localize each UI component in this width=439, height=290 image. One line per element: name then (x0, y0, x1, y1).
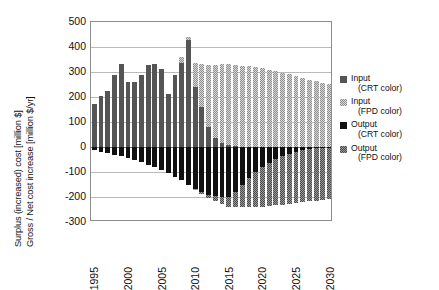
bar-column (273, 22, 278, 220)
bar-column (186, 22, 191, 220)
bar-segment-input-crt (193, 87, 198, 147)
bar-column (300, 22, 305, 220)
bar-segment-input-crt (126, 82, 131, 148)
y-axis-tick-label: 500 (46, 16, 86, 27)
bar-segment-input-crt (206, 127, 211, 147)
bar-segment-input-crt (159, 69, 164, 148)
bar-column (327, 22, 332, 220)
legend-label-secondary: (CRT color) (358, 130, 436, 140)
bar-segment-output-fpd (273, 159, 278, 205)
bar-segment-output-fpd (327, 148, 332, 200)
bar-segment-input-fpd (226, 64, 231, 145)
x-axis-tick-label: 2000 (122, 267, 134, 290)
bar-column (247, 22, 252, 220)
bar-column (314, 22, 319, 220)
bar-segment-input-fpd (247, 66, 252, 147)
bar-segment-input-fpd (287, 74, 292, 147)
bar-column (193, 22, 198, 220)
bar-segment-input-fpd (253, 67, 258, 147)
plot-area (90, 21, 332, 221)
bar-segment-output-crt (253, 147, 258, 172)
bar-segment-input-fpd (300, 78, 305, 147)
bar-segment-output-crt (199, 147, 204, 192)
legend-item: Output(CRT color) (340, 120, 436, 139)
bar-segment-output-crt (247, 147, 252, 178)
x-axis-tick-label: 2030 (324, 267, 336, 290)
bar-column (226, 22, 231, 220)
bar-segment-input-crt (173, 75, 178, 147)
bar-segment-output-fpd (233, 192, 238, 208)
y-axis-tick-label: 0 (46, 141, 86, 152)
legend-item: Output(FPD color) (340, 144, 436, 163)
bar-segment-input-fpd (294, 76, 299, 147)
bar-segment-output-crt (173, 147, 178, 177)
bar-segment-input-crt (92, 104, 97, 147)
bar-segment-output-crt (280, 147, 285, 156)
bar-column (260, 22, 265, 220)
bar-column (179, 22, 184, 220)
bar-segment-input-crt (152, 64, 157, 148)
bar-segment-output-crt (193, 147, 198, 189)
bar-segment-input-fpd (206, 65, 211, 128)
y-axis-tick-label: 200 (46, 91, 86, 102)
bar-segment-output-crt (139, 147, 144, 162)
bar-column (199, 22, 204, 220)
bar-segment-output-crt (186, 147, 191, 185)
bar-segment-output-fpd (260, 167, 265, 207)
bar-segment-input-crt (112, 75, 117, 147)
bar-segment-output-fpd (220, 197, 225, 205)
bar-column (92, 22, 97, 220)
bar-segment-output-crt (159, 147, 164, 170)
bar-segment-input-crt (139, 75, 144, 148)
x-axis-tick-label: 2025 (290, 267, 302, 290)
bar-column (253, 22, 258, 220)
bar-segment-input-fpd (233, 65, 238, 147)
chart-legend: Input(CRT color)Input(FPD color)Output(C… (340, 74, 436, 167)
bar-column (287, 22, 292, 220)
bar-segment-input-fpd (267, 70, 272, 148)
y-axis-tick-label: -300 (46, 216, 86, 227)
bar-segment-output-crt (179, 147, 184, 180)
bar-segment-output-crt (220, 147, 225, 197)
bar-segment-output-fpd (226, 197, 231, 207)
bar-column (307, 22, 312, 220)
bar-segment-output-fpd (240, 185, 245, 208)
bar-segment-output-crt (132, 147, 137, 160)
x-axis-tick-labels: 19952000200520102015202020252030 (90, 223, 332, 279)
bar-segment-input-crt (146, 65, 151, 147)
bar-segment-output-fpd (320, 148, 325, 200)
bar-segment-input-fpd (220, 64, 225, 143)
bar-segment-input-fpd (280, 73, 285, 148)
bar-segment-output-fpd (247, 178, 252, 207)
bar-column (320, 22, 325, 220)
bar-segment-output-fpd (267, 163, 272, 206)
bar-segment-input-crt (166, 94, 171, 147)
bar-column (267, 22, 272, 220)
x-axis-tick-label: 1995 (88, 267, 100, 290)
bar-segment-input-fpd (327, 84, 332, 147)
legend-swatch-output-fpd (340, 146, 347, 153)
bar-segment-input-fpd (213, 65, 218, 138)
bar-column (220, 22, 225, 220)
bar-series-group (91, 22, 331, 220)
bar-segment-input-fpd (179, 57, 184, 63)
bar-segment-output-crt (99, 147, 104, 152)
bar-segment-input-fpd (199, 64, 204, 107)
bar-segment-output-crt (112, 147, 117, 155)
bar-segment-output-crt (146, 147, 151, 165)
bar-segment-output-crt (126, 147, 131, 158)
y-axis-title-line-1: Surplus (increased) cost [million $] (13, 110, 23, 247)
bar-segment-input-crt (213, 138, 218, 147)
bar-column (206, 22, 211, 220)
bar-column (139, 22, 144, 220)
y-axis-tick-label: 100 (46, 116, 86, 127)
bar-segment-output-fpd (193, 189, 198, 190)
bar-segment-input-crt (199, 107, 204, 147)
bar-segment-output-crt (273, 147, 278, 159)
x-axis-tick-label: 2020 (256, 267, 268, 290)
bar-segment-input-fpd (240, 66, 245, 147)
bar-column (280, 22, 285, 220)
bar-segment-output-fpd (300, 150, 305, 202)
legend-swatch-output-crt (340, 122, 347, 129)
